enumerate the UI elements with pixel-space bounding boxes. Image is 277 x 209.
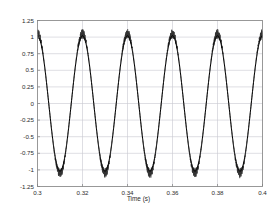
y-tick-label: -1 [2,166,34,173]
y-tick-label: 1 [2,33,34,40]
y-tick-label: 1.25 [2,17,34,24]
chart-figure [0,0,277,209]
y-tick-label: 0.75 [2,50,34,57]
y-tick-label: 0 [2,100,34,107]
y-tick-label: -0.5 [2,133,34,140]
x-axis-title: Time (s) [0,195,277,202]
y-tick-label: -0.75 [2,149,34,156]
y-tick-label: 0.5 [2,66,34,73]
y-tick-label: -0.25 [2,116,34,123]
y-tick-label: 0.25 [2,83,34,90]
